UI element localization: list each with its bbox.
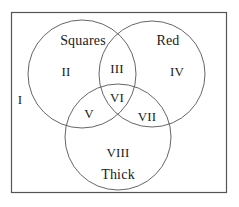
region-label-iv: IV — [170, 65, 184, 78]
region-label-vii: VII — [138, 110, 157, 123]
region-label-iii: III — [110, 62, 124, 75]
set-label-red: Red — [156, 34, 179, 48]
region-label-v: V — [84, 107, 94, 120]
region-label-viii: VIII — [106, 146, 129, 159]
set-label-thick: Thick — [101, 168, 135, 182]
venn-diagram-figure: Squares Red Thick I II III IV V VI VII V… — [0, 0, 239, 207]
region-label-vi: VI — [110, 91, 124, 104]
set-label-squares: Squares — [60, 34, 106, 48]
region-label-i: I — [18, 93, 23, 106]
region-label-ii: II — [61, 65, 70, 78]
